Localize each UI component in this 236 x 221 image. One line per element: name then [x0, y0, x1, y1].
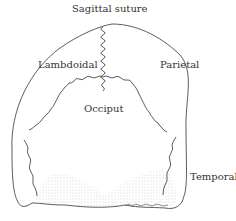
skull-diagram: Sagittal suture Lambdoidal Parietal Occi… — [0, 0, 236, 221]
label-lambdoidal: Lambdoidal — [38, 60, 98, 70]
label-sagittal-suture: Sagittal suture — [72, 4, 148, 14]
label-parietal: Parietal — [160, 60, 199, 70]
sagittal-suture — [101, 27, 105, 91]
mastoid-shading — [35, 168, 177, 207]
occipitomastoid-suture-left — [24, 140, 37, 196]
label-temporal: Temporal — [190, 172, 236, 182]
label-occiput: Occiput — [84, 104, 123, 114]
